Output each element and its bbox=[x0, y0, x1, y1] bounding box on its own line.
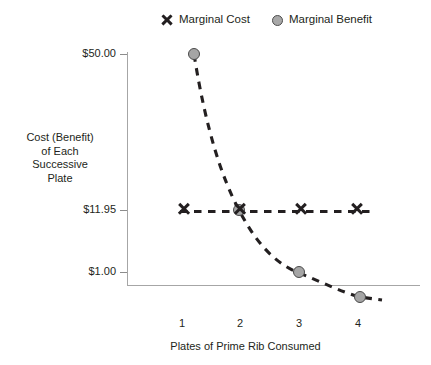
x-axis-title: Plates of Prime Rib Consumed bbox=[0, 340, 431, 352]
legend-label-marginal-benefit: Marginal Benefit bbox=[289, 14, 372, 26]
data-point-cost-4 bbox=[350, 202, 365, 217]
y-tick-label-1-wrap: $1.00 bbox=[0, 266, 116, 278]
y-axis-title-line-1: Cost (Benefit) bbox=[6, 131, 114, 145]
y-tick-mark-50 bbox=[120, 54, 127, 55]
x-axis-line bbox=[127, 285, 420, 286]
circle-marker-icon bbox=[272, 15, 283, 26]
legend-item-marginal-benefit: Marginal Benefit bbox=[272, 14, 372, 26]
chart-legend: Marginal Cost Marginal Benefit bbox=[160, 10, 372, 30]
x-tick-label-4: 4 bbox=[343, 318, 373, 329]
y-tick-mark-1195 bbox=[120, 210, 127, 211]
y-axis-line bbox=[127, 52, 128, 286]
data-point-cost-3 bbox=[294, 202, 309, 217]
data-point-benefit-1 bbox=[188, 48, 200, 60]
x-marker-icon bbox=[160, 14, 173, 27]
x-tick-label-3: 3 bbox=[284, 318, 314, 329]
x-tick-label-2: 2 bbox=[225, 318, 255, 329]
y-axis-title-line-4: Plate bbox=[6, 172, 114, 186]
x-tick-label-1: 1 bbox=[167, 318, 197, 329]
legend-label-marginal-cost: Marginal Cost bbox=[179, 14, 250, 26]
legend-item-marginal-cost: Marginal Cost bbox=[160, 14, 250, 27]
y-tick-label-1195-wrap: $11.95 bbox=[0, 204, 116, 216]
y-tick-label-50-wrap: $50.00 bbox=[0, 48, 116, 60]
y-axis-title-line-2: of Each bbox=[6, 145, 114, 159]
y-axis-title: Cost (Benefit) of Each Successive Plate bbox=[6, 131, 114, 185]
y-axis-title-line-3: Successive bbox=[6, 158, 114, 172]
y-tick-mark-1 bbox=[120, 272, 127, 273]
y-tick-label-1: $1.00 bbox=[88, 266, 116, 277]
data-point-cost-1 bbox=[177, 202, 192, 217]
data-point-benefit-4 bbox=[354, 291, 366, 303]
marginal-benefit-curve bbox=[194, 54, 382, 300]
x-axis-title-text: Plates of Prime Rib Consumed bbox=[170, 340, 320, 352]
data-point-cost-2 bbox=[233, 202, 248, 217]
data-point-benefit-3 bbox=[293, 266, 305, 278]
y-tick-label-50: $50.00 bbox=[82, 48, 116, 59]
marginal-cost-benefit-chart: Marginal Cost Marginal Benefit $50.00 $1… bbox=[0, 0, 431, 365]
y-tick-label-1195: $11.95 bbox=[83, 204, 116, 215]
